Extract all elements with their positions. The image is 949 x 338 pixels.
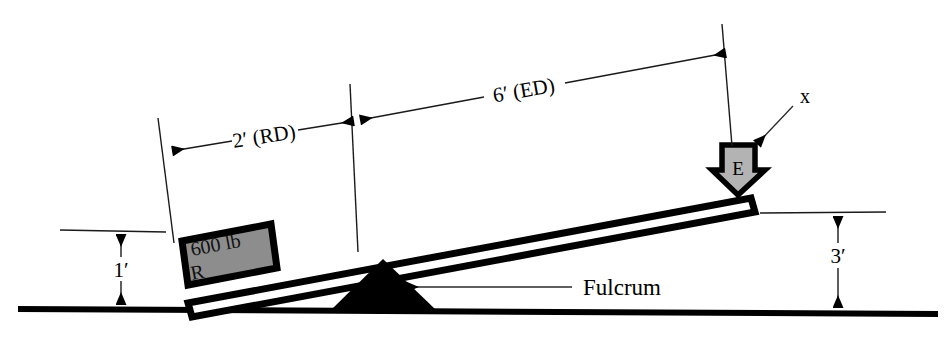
resistance-block: 600 lb R [182, 224, 277, 285]
rd-arrow-left-segment [172, 141, 232, 151]
lever-diagram-figure: 600 lb R E 2′ (RD) [0, 0, 949, 338]
effort-callout-label: x [800, 85, 810, 107]
extension-line-left [158, 118, 174, 243]
ed-arrow-left-segment [360, 97, 484, 120]
effort-symbol-label: E [732, 158, 744, 179]
reference-line-left-height [60, 230, 166, 232]
extension-line-right [722, 24, 732, 146]
rd-label: 2′ (RD) [231, 119, 297, 153]
effort-callout-leader [757, 106, 793, 144]
height3-label: 3′ [830, 244, 845, 268]
fulcrum-callout-label: Fulcrum [583, 275, 661, 300]
dimension-resistance-height: 1′ [113, 234, 128, 305]
extension-line-middle [350, 84, 358, 252]
dimension-effort-distance: 6′ (ED) [360, 53, 726, 120]
fulcrum-callout: Fulcrum [406, 275, 661, 300]
effort-callout: x [757, 85, 810, 144]
rd-arrow-right-segment [298, 121, 354, 130]
ground-line [18, 306, 938, 317]
dimension-resistance-distance: 2′ (RD) [172, 119, 354, 153]
ed-label: 6′ (ED) [491, 73, 557, 107]
ed-arrow-right-segment [565, 53, 726, 83]
height1-label: 1′ [113, 258, 128, 282]
dimension-effort-height: 3′ [830, 216, 845, 308]
diagram-canvas: 600 lb R E 2′ (RD) [0, 0, 949, 338]
reference-line-right-height [760, 212, 886, 213]
effort-arrow: E [712, 145, 765, 195]
